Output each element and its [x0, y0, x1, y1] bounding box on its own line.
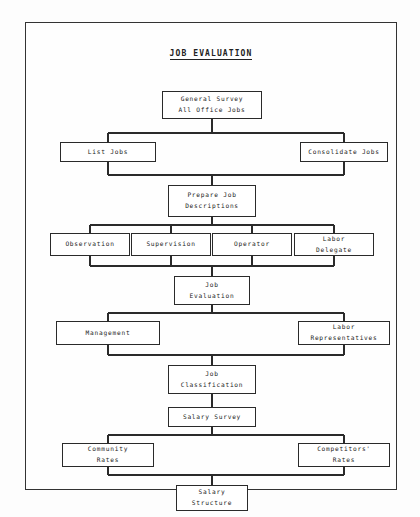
node-observation[interactable]: Observation — [50, 233, 130, 256]
page-title: JOB EVALUATION — [26, 49, 396, 58]
node-salary-structure[interactable]: Salary Structure — [176, 485, 248, 511]
node-labor-delegate[interactable]: Labor Delegate — [294, 233, 374, 256]
node-list-jobs[interactable]: List Jobs — [60, 142, 156, 162]
node-supervision[interactable]: Supervision — [131, 233, 211, 256]
node-management[interactable]: Management — [56, 321, 160, 345]
node-competitors-rates[interactable]: Competitors' Rates — [298, 443, 390, 467]
node-salary-survey[interactable]: Salary Survey — [168, 407, 256, 427]
node-general-survey[interactable]: General Survey All Office Jobs — [162, 91, 262, 119]
node-labor-representatives[interactable]: Labor Representatives — [298, 321, 390, 345]
node-job-classification[interactable]: Job Classification — [168, 365, 256, 394]
flowchart-canvas: JOB EVALUATION — [0, 0, 420, 517]
node-job-evaluation[interactable]: Job Evaluation — [174, 276, 250, 305]
node-consolidate-jobs[interactable]: Consolidate Jobs — [300, 142, 388, 162]
node-prepare-job-descriptions[interactable]: Prepare Job Descriptions — [168, 185, 256, 217]
page-title-text: JOB EVALUATION — [170, 49, 253, 60]
node-operator[interactable]: Operator — [212, 233, 292, 256]
node-community-rates[interactable]: Community Rates — [62, 443, 154, 467]
page-frame: JOB EVALUATION — [25, 22, 397, 490]
